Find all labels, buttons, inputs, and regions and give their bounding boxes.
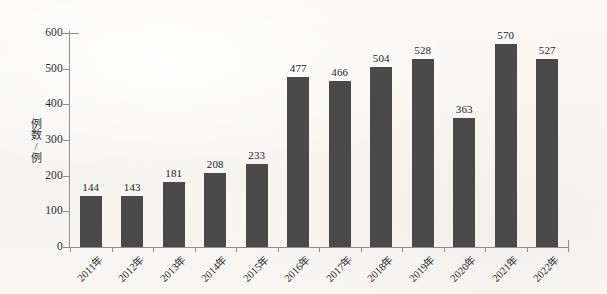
x-tick-mark: [236, 247, 237, 252]
y-tick-mark: [63, 140, 70, 141]
x-tick-label: 2021年: [479, 252, 521, 294]
x-tick-mark: [278, 247, 279, 252]
y-tick-label: 300: [17, 133, 63, 145]
x-tick-mark: [485, 247, 486, 252]
x-tick-label: 2022年: [520, 252, 562, 294]
bar-value-label: 477: [278, 62, 318, 74]
bar-value-label: 528: [403, 44, 443, 56]
bar-value-label: 466: [320, 66, 360, 78]
x-tick-mark: [195, 247, 196, 252]
bar: [121, 196, 143, 247]
y-tick-mark: [63, 33, 70, 34]
y-tick-label: 600: [17, 26, 63, 38]
bar-value-label: 570: [486, 29, 526, 41]
bar: [287, 77, 309, 247]
x-tick-mark: [402, 247, 403, 252]
y-tick-mark: [63, 247, 70, 248]
bar: [246, 164, 268, 247]
bar: [204, 173, 226, 247]
bar: [329, 81, 351, 247]
y-tick-label: 100: [17, 204, 63, 216]
y-axis-tick-labels: 0100200300400500600: [8, 0, 63, 294]
y-tick-mark: [63, 176, 70, 177]
x-tick-mark: [153, 247, 154, 252]
x-tick-label: 2016年: [271, 252, 313, 294]
y-tick-mark: [63, 69, 70, 70]
x-tick-label: 2018年: [354, 252, 396, 294]
x-tick-mark: [319, 247, 320, 252]
y-tick-label: 0: [17, 240, 63, 252]
bar-value-label: 144: [71, 181, 111, 193]
x-tick-mark: [70, 247, 71, 252]
y-tick-mark: [63, 211, 70, 212]
bar-value-label: 208: [195, 158, 235, 170]
bar-chart-figure: 例数/例 0100200300400500600 144143181208233…: [0, 0, 607, 294]
bar-value-label: 143: [112, 181, 152, 193]
x-tick-label: 2012年: [105, 252, 147, 294]
y-tick-label: 200: [17, 169, 63, 181]
x-tick-mark: [112, 247, 113, 252]
axis-right-end-tick: [568, 240, 569, 247]
x-tick-label: 2015年: [230, 252, 272, 294]
x-tick-mark: [527, 247, 528, 252]
x-tick-label: 2019年: [396, 252, 438, 294]
bar-value-label: 233: [237, 149, 277, 161]
bar: [412, 59, 434, 247]
bar: [495, 44, 517, 247]
x-tick-mark: [444, 247, 445, 252]
bar-value-label: 363: [444, 103, 484, 115]
bar: [80, 196, 102, 247]
bar: [370, 67, 392, 247]
y-tick-mark: [63, 104, 70, 105]
x-tick-label: 2011年: [64, 252, 106, 294]
x-tick-mark: [568, 247, 569, 252]
x-tick-label: 2013年: [147, 252, 189, 294]
bar-value-label: 181: [154, 167, 194, 179]
bar-value-label: 527: [527, 44, 567, 56]
bar-value-label: 504: [361, 52, 401, 64]
bar: [453, 118, 475, 247]
bar: [536, 59, 558, 247]
x-tick-label: 2014年: [188, 252, 230, 294]
bar: [163, 182, 185, 247]
x-tick-label: 2017年: [313, 252, 355, 294]
y-tick-label: 500: [17, 62, 63, 74]
x-tick-label: 2020年: [437, 252, 479, 294]
x-tick-mark: [361, 247, 362, 252]
y-tick-label: 400: [17, 97, 63, 109]
